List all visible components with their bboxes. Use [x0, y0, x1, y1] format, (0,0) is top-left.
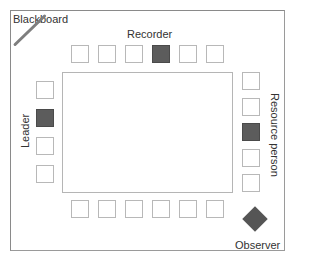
seat-left	[36, 137, 54, 155]
seat-bottom	[206, 200, 224, 218]
seat-bottom	[98, 200, 116, 218]
leader-label: Leader	[20, 114, 31, 148]
seat-top	[179, 45, 197, 63]
seat-bottom	[71, 200, 89, 218]
seat-right-role	[242, 123, 260, 141]
seat-bottom	[125, 200, 143, 218]
seat-bottom	[179, 200, 197, 218]
conference-table	[62, 72, 233, 193]
seat-right	[242, 149, 260, 167]
seat-bottom	[152, 200, 170, 218]
seat-right	[242, 72, 260, 90]
seat-left	[36, 165, 54, 183]
observer-label: Observer	[235, 240, 280, 251]
seat-top	[71, 45, 89, 63]
seat-top-role	[152, 45, 170, 63]
seat-right	[242, 98, 260, 116]
recorder-label: Recorder	[127, 29, 172, 40]
seat-left	[36, 81, 54, 99]
seat-top	[125, 45, 143, 63]
resource-person-label: Resource person	[269, 93, 280, 177]
seat-right	[242, 174, 260, 192]
seat-top	[98, 45, 116, 63]
seat-top	[206, 45, 224, 63]
seat-left-role	[36, 109, 54, 127]
